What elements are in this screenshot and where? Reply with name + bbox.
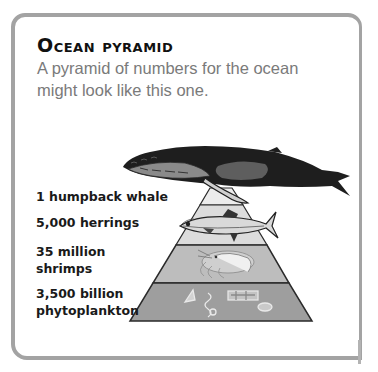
label-herring-count: 5,000 herrings — [36, 214, 139, 231]
label-whale-count: 1 humpback whale — [36, 188, 168, 205]
label-phytoplankton-organism: phytoplankton — [36, 302, 139, 319]
label-shrimp-organism: shrimps — [36, 260, 92, 277]
label-phytoplankton-count: 3,500 billion — [36, 285, 123, 302]
label-shrimp-count: 35 million — [36, 243, 105, 260]
pyramid-level-phytoplankton — [130, 283, 312, 321]
